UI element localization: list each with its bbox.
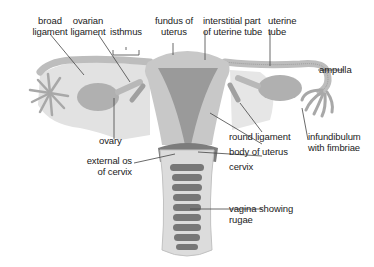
vaginal-rugae — [170, 164, 204, 250]
label-isthmus: isthmus — [108, 26, 144, 37]
label-cervix: cervix — [229, 161, 253, 172]
label-body-of-uterus: body of uterus — [229, 146, 288, 157]
right-ovary — [258, 75, 302, 101]
label-ovarian-ligament: ovarian ligament — [66, 15, 110, 37]
right-fimbriae — [302, 90, 332, 116]
label-infundibulum: infundibulum with fimbriae — [308, 131, 361, 153]
label-fundus-of-uterus: fundus of uterus — [152, 15, 196, 37]
label-ampulla: ampulla — [319, 64, 352, 75]
left-ovary — [77, 83, 119, 111]
label-external-os: external os of cervix — [60, 155, 132, 177]
label-vagina: vagina showing rugae — [229, 203, 293, 225]
label-uterine-tube: uterine tube — [268, 15, 296, 37]
label-ovary: ovary — [99, 135, 122, 146]
label-round-ligament: round ligament — [229, 131, 290, 142]
label-interstitial-part: interstitial part of uterine tube — [203, 15, 262, 37]
